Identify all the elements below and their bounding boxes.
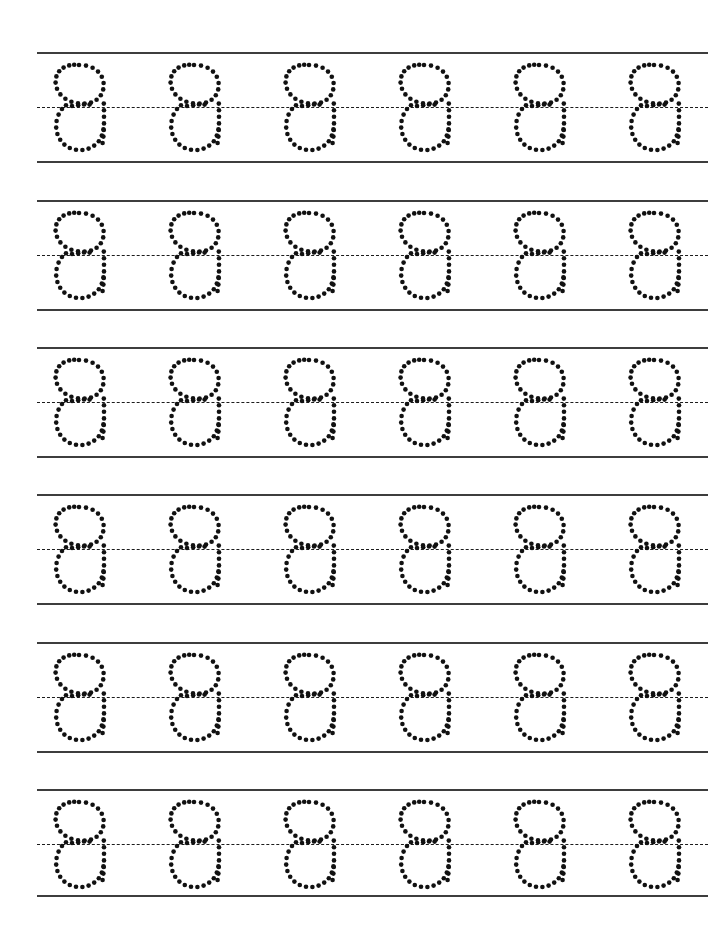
trace-dot bbox=[629, 862, 634, 867]
tracing-letter-slot-r2-c5[interactable] bbox=[510, 211, 574, 309]
trace-dot bbox=[101, 382, 106, 387]
tracing-letter-slot-r1-c2[interactable] bbox=[165, 63, 229, 161]
tracing-letter-slot-r6-c1[interactable] bbox=[50, 800, 114, 898]
trace-dot bbox=[330, 75, 335, 80]
trace-dot bbox=[314, 358, 319, 363]
glyph-stroke-bowl bbox=[168, 211, 221, 254]
trace-dot bbox=[102, 115, 107, 120]
tracing-letter-slot-r3-c4[interactable] bbox=[395, 358, 459, 456]
trace-dot bbox=[69, 395, 74, 400]
trace-dot bbox=[514, 664, 519, 669]
glyph-stroke-bowl bbox=[513, 505, 566, 548]
trace-dot bbox=[675, 731, 680, 736]
trace-dot bbox=[635, 844, 640, 849]
glyph-stroke-stem bbox=[100, 396, 106, 440]
trace-dot bbox=[532, 63, 537, 68]
tracing-letter-slot-r5-c3[interactable] bbox=[280, 653, 344, 751]
tracing-letter-slot-r2-c4[interactable] bbox=[395, 211, 459, 309]
tracing-letter-slot-r3-c3[interactable] bbox=[280, 358, 344, 456]
glyph-stroke-midline-entry bbox=[179, 397, 207, 403]
trace-dot bbox=[415, 841, 420, 846]
trace-dot bbox=[199, 63, 204, 68]
tracing-letter-slot-r6-c5[interactable] bbox=[510, 800, 574, 898]
trace-dot bbox=[644, 690, 649, 695]
tracing-letter-slot-r4-c4[interactable] bbox=[395, 505, 459, 603]
tracing-letter-slot-r5-c4[interactable] bbox=[395, 653, 459, 751]
tracing-letter-slot-r2-c2[interactable] bbox=[165, 211, 229, 309]
trace-dot bbox=[58, 580, 63, 585]
trace-dot bbox=[173, 387, 178, 392]
tracing-letter-slot-r5-c6[interactable] bbox=[625, 653, 689, 751]
tracing-letter-slot-r5-c1[interactable] bbox=[50, 653, 114, 751]
trace-dot bbox=[56, 702, 61, 707]
tracing-letter-slot-r6-c4[interactable] bbox=[395, 800, 459, 898]
trace-dot bbox=[644, 542, 649, 547]
tracing-letter-slot-r2-c6[interactable] bbox=[625, 211, 689, 309]
trace-dot bbox=[662, 544, 667, 549]
glyph-stroke-midline-entry bbox=[409, 839, 437, 845]
tracing-letter-slot-r4-c5[interactable] bbox=[510, 505, 574, 603]
tracing-letter-slot-r3-c2[interactable] bbox=[165, 358, 229, 456]
trace-dot bbox=[302, 63, 307, 68]
trace-dot bbox=[332, 852, 337, 857]
tracing-letter-slot-r4-c1[interactable] bbox=[50, 505, 114, 603]
trace-dot bbox=[546, 294, 551, 299]
trace-dot bbox=[284, 715, 289, 720]
trace-dot bbox=[332, 718, 337, 723]
trace-dot bbox=[669, 688, 674, 693]
trace-dot bbox=[182, 211, 187, 216]
trace-dot bbox=[215, 517, 220, 522]
tracing-letter-slot-r3-c1[interactable] bbox=[50, 358, 114, 456]
glyph-stroke-stem bbox=[675, 691, 681, 735]
trace-dot bbox=[307, 800, 312, 805]
trace-dot bbox=[205, 656, 210, 661]
trace-dot bbox=[400, 132, 405, 137]
tracing-letter-slot-r2-c3[interactable] bbox=[280, 211, 344, 309]
glyph-stroke-lower-bowl bbox=[629, 549, 681, 595]
tracing-letter-slot-r5-c5[interactable] bbox=[510, 653, 574, 751]
tracing-letter-slot-r4-c3[interactable] bbox=[280, 505, 344, 603]
trace-dot bbox=[561, 87, 566, 92]
trace-dot bbox=[527, 800, 532, 805]
tracing-letter-slot-r4-c6[interactable] bbox=[625, 505, 689, 603]
trace-dot bbox=[400, 280, 405, 285]
trace-dot bbox=[53, 670, 58, 675]
tracing-letter-slot-r3-c6[interactable] bbox=[625, 358, 689, 456]
tracing-letter-slot-r6-c2[interactable] bbox=[165, 800, 229, 898]
trace-dot bbox=[331, 229, 336, 234]
trace-dot bbox=[514, 267, 519, 272]
tracing-letter-slot-r1-c5[interactable] bbox=[510, 63, 574, 161]
tracing-letter-slot-r2-c1[interactable] bbox=[50, 211, 114, 309]
tracing-letter-slot-r4-c2[interactable] bbox=[165, 505, 229, 603]
tracing-letter-slot-r1-c3[interactable] bbox=[280, 63, 344, 161]
trace-dot bbox=[529, 248, 534, 253]
tracing-letter-slot-r6-c6[interactable] bbox=[625, 800, 689, 898]
trace-dot bbox=[675, 141, 680, 146]
trace-dot bbox=[300, 694, 305, 699]
trace-dot bbox=[667, 733, 672, 738]
trace-dot bbox=[195, 738, 200, 743]
trace-dot bbox=[414, 395, 419, 400]
tracing-letter-slot-r5-c2[interactable] bbox=[165, 653, 229, 751]
trace-dot bbox=[403, 829, 408, 834]
glyph-stroke-midline-entry bbox=[64, 102, 92, 108]
tracing-letter-slot-r1-c4[interactable] bbox=[395, 63, 459, 161]
tracing-letter-slot-r1-c1[interactable] bbox=[50, 63, 114, 161]
tracing-letter-slot-r3-c5[interactable] bbox=[510, 358, 574, 456]
tracing-letter-slot-r1-c6[interactable] bbox=[625, 63, 689, 161]
glyph-stroke-stem bbox=[100, 543, 106, 587]
trace-dot bbox=[651, 840, 656, 845]
tracing-letter-slot-r6-c3[interactable] bbox=[280, 800, 344, 898]
trace-dot bbox=[332, 543, 337, 548]
trace-dot bbox=[92, 880, 97, 885]
trace-dot bbox=[542, 397, 547, 402]
trace-dot bbox=[284, 561, 289, 566]
trace-dot bbox=[651, 398, 656, 403]
trace-dot bbox=[297, 63, 302, 68]
trace-dot bbox=[659, 653, 664, 658]
trace-dot bbox=[195, 296, 200, 301]
trace-dot bbox=[554, 540, 559, 545]
trace-dot bbox=[536, 693, 541, 698]
trace-dot bbox=[172, 69, 177, 74]
trace-dot bbox=[524, 103, 529, 108]
